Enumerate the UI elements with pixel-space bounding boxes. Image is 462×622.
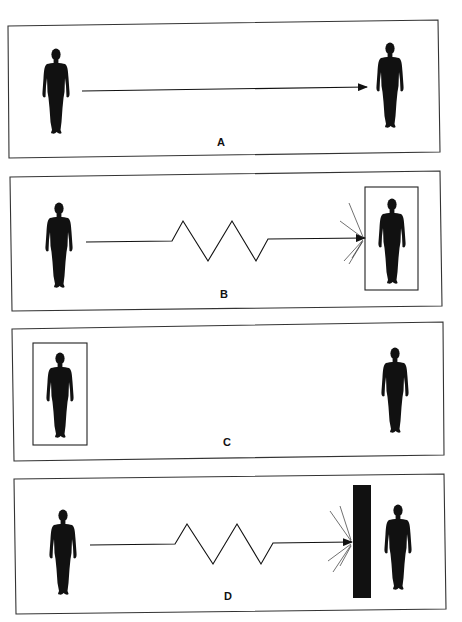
panel-label-b: B <box>220 288 228 300</box>
communication-diagram: A B C <box>0 0 462 622</box>
barrier-wall <box>353 485 371 598</box>
impact-burst-icon <box>340 203 363 264</box>
panel-d: D <box>14 474 446 614</box>
disrupted-message-arrow <box>86 221 365 261</box>
message-arrow <box>82 87 367 91</box>
panel-b: B <box>10 171 442 311</box>
panel-label-c: C <box>223 436 231 448</box>
disrupted-message-arrow <box>90 524 352 564</box>
impact-burst-icon <box>328 506 351 572</box>
sender-figure <box>46 353 73 438</box>
sender-figure <box>42 49 69 134</box>
panel-label-d: D <box>224 590 232 602</box>
receiver-figure <box>381 348 408 433</box>
panel-label-a: A <box>217 136 225 148</box>
sender-figure <box>49 510 76 595</box>
sender-figure <box>45 203 72 288</box>
panel-c: C <box>12 322 444 461</box>
panel-a: A <box>8 20 440 158</box>
receiver-figure <box>384 505 411 590</box>
receiver-figure <box>378 199 405 284</box>
receiver-figure <box>376 43 403 128</box>
